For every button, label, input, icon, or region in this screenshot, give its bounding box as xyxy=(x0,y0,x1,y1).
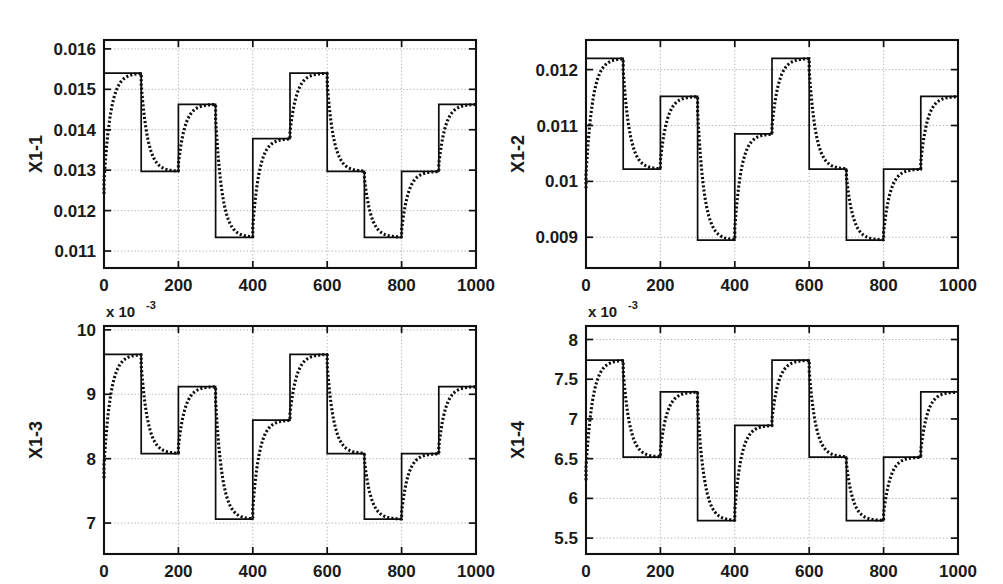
series-group xyxy=(586,58,958,240)
y-tick-label: 0.01 xyxy=(545,172,578,191)
y-tick-label: 6 xyxy=(569,489,578,508)
x-tick-label: 200 xyxy=(646,562,674,581)
x-tick-label: 400 xyxy=(239,562,267,581)
tick-group: 0.0090.010.0110.01202004006008001000 xyxy=(535,40,976,295)
y-tick-label: 0.011 xyxy=(536,117,578,136)
y-tick-label: 0.014 xyxy=(53,121,96,140)
tick-group: 5.566.577.5802004006008001000 xyxy=(554,326,977,581)
y-tick-label: 0.013 xyxy=(53,161,96,180)
series-group xyxy=(104,354,476,519)
svg-text:-3: -3 xyxy=(628,299,638,311)
x-tick-label: 1000 xyxy=(939,562,977,581)
reference-curve xyxy=(104,354,476,519)
subplot-x1-2: 0.0090.010.0110.01202004006008001000X1-2 xyxy=(482,14,982,294)
figure-canvas: 0.0110.0120.0130.0140.0150.0160200400600… xyxy=(0,0,1003,584)
tick-group: 7891002004006008001000 xyxy=(77,321,495,581)
y-tick-label: 5.5 xyxy=(554,529,578,548)
reference-curve xyxy=(586,58,958,240)
svg-text:x 10: x 10 xyxy=(588,303,617,320)
x-tick-label: 0 xyxy=(99,562,108,581)
chart-x1-4: 5.566.577.5802004006008001000X1-4x 10-3 xyxy=(482,292,982,580)
y-tick-label: 9 xyxy=(87,385,96,404)
chart-x1-3: 7891002004006008001000X1-3x 10-3 xyxy=(0,292,500,580)
series-group xyxy=(586,360,958,520)
reference-curve xyxy=(104,73,476,237)
y-tick-label: 0.015 xyxy=(53,80,96,99)
x-tick-label: 600 xyxy=(313,562,341,581)
y-axis-label: X1-4 xyxy=(508,421,528,459)
x-tick-label: 0 xyxy=(581,562,590,581)
axis-exponent-label: x 10-3 xyxy=(106,299,156,320)
x-tick-label: 800 xyxy=(387,562,415,581)
y-tick-label: 7 xyxy=(87,514,96,533)
svg-text:-3: -3 xyxy=(146,299,156,311)
subplot-x1-1: 0.0110.0120.0130.0140.0150.0160200400600… xyxy=(0,14,500,294)
y-tick-label: 8 xyxy=(569,331,578,350)
subplot-x1-4: 5.566.577.5802004006008001000X1-4x 10-3 xyxy=(482,292,982,580)
y-tick-label: 0.009 xyxy=(535,228,578,247)
y-tick-label: 0.011 xyxy=(54,242,96,261)
y-tick-label: 8 xyxy=(87,450,96,469)
x-tick-label: 600 xyxy=(795,562,823,581)
y-axis-label: X1-2 xyxy=(508,135,528,173)
x-tick-label: 400 xyxy=(721,562,749,581)
subplot-x1-3: 7891002004006008001000X1-3x 10-3 xyxy=(0,292,500,580)
x-tick-label: 800 xyxy=(869,562,897,581)
x-tick-label: 200 xyxy=(164,562,192,581)
chart-x1-1: 0.0110.0120.0130.0140.0150.0160200400600… xyxy=(0,14,500,294)
tick-group: 0.0110.0120.0130.0140.0150.0160200400600… xyxy=(53,40,494,295)
y-tick-label: 10 xyxy=(77,321,96,340)
svg-text:x 10: x 10 xyxy=(106,303,135,320)
y-tick-label: 7.5 xyxy=(554,370,578,389)
chart-x1-2: 0.0090.010.0110.01202004006008001000X1-2 xyxy=(482,14,982,294)
axis-exponent-label: x 10-3 xyxy=(588,299,638,320)
y-tick-label: 0.012 xyxy=(535,61,578,80)
reference-curve xyxy=(586,360,958,520)
y-tick-label: 0.016 xyxy=(53,40,96,59)
y-axis-label: X1-1 xyxy=(26,135,46,173)
series-group xyxy=(104,73,476,237)
y-axis-label: X1-3 xyxy=(26,421,46,459)
y-tick-label: 6.5 xyxy=(554,450,578,469)
y-tick-label: 0.012 xyxy=(53,202,96,221)
y-tick-label: 7 xyxy=(569,410,578,429)
